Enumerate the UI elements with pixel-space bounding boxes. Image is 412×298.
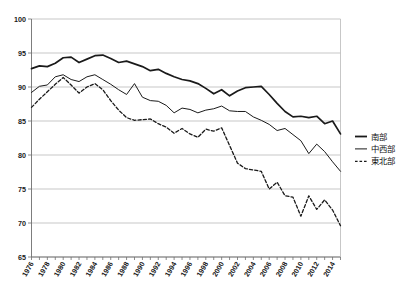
x-tick-label-1980: 1980	[52, 260, 68, 278]
series-line-midwest	[32, 75, 341, 172]
chart-canvas: 65707580859095100 1976197819801982198419…	[0, 0, 412, 298]
gridlines-group	[32, 19, 341, 257]
y-tick-label-75: 75	[18, 185, 26, 194]
line-chart: 65707580859095100 1976197819801982198419…	[0, 0, 412, 298]
x-tick-label-2000: 2000	[210, 260, 226, 278]
x-tick-label-1978: 1978	[36, 260, 52, 278]
x-tick-label-2006: 2006	[258, 260, 274, 278]
x-tick-label-1982: 1982	[68, 260, 84, 278]
legend-label-3: 東北部	[371, 156, 395, 166]
x-tick-label-2008: 2008	[274, 260, 290, 278]
x-tick-label-2012: 2012	[305, 260, 321, 278]
x-tick-label-2004: 2004	[242, 260, 258, 278]
y-tick-label-65: 65	[18, 253, 26, 262]
y-tick-label-85: 85	[18, 117, 26, 126]
x-tick-label-1984: 1984	[83, 260, 99, 278]
y-tick-label-90: 90	[18, 83, 26, 92]
x-tick-label-2010: 2010	[289, 260, 305, 278]
x-tick-label-2014: 2014	[321, 260, 337, 278]
x-tick-label-1998: 1998	[194, 260, 210, 278]
legend-label-1: 南部	[371, 132, 387, 142]
x-tick-label-2002: 2002	[226, 260, 242, 278]
x-tick-label-1976: 1976	[20, 260, 36, 278]
y-tick-label-100: 100	[14, 15, 26, 24]
x-tick-label-1994: 1994	[163, 260, 179, 278]
series-line-south	[32, 55, 341, 134]
legend-label-2: 中西部	[371, 144, 395, 154]
y-tick-label-95: 95	[18, 49, 26, 58]
y-axis-tick-labels: 65707580859095100	[14, 15, 32, 262]
x-axis-tickmarks	[32, 257, 341, 260]
x-tick-label-1992: 1992	[147, 260, 163, 278]
plot-border	[32, 19, 341, 257]
legend: 南部中西部東北部	[355, 132, 395, 167]
x-tick-label-1986: 1986	[99, 260, 115, 278]
x-tick-label-1996: 1996	[178, 260, 194, 278]
data-series-group	[32, 55, 341, 226]
x-tick-label-1988: 1988	[115, 260, 131, 278]
y-tick-label-80: 80	[18, 151, 26, 160]
x-axis-tick-labels: 1976197819801982198419861988199019921994…	[20, 260, 337, 278]
y-tick-label-70: 70	[18, 219, 26, 228]
series-line-northeast	[32, 77, 341, 225]
x-tick-label-1990: 1990	[131, 260, 147, 278]
